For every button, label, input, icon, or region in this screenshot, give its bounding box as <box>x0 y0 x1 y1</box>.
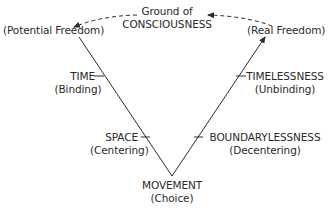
ground-of-text: Ground of <box>117 5 217 18</box>
consciousness-text: CONSCIOUSNESS <box>117 18 217 31</box>
space-sub: (Centering) <box>90 144 154 157</box>
real-freedom-label: (Real Freedom) <box>247 24 325 37</box>
time-term: TIME <box>53 70 103 83</box>
boundarylessness-term: BOUNDARYLESSNESS <box>203 131 327 144</box>
movement-sub: (Choice) <box>132 192 212 205</box>
boundarylessness-sub: (Decentering) <box>203 144 327 157</box>
timelessness-label: TIMELESSNESS (Unbinding) <box>245 70 325 96</box>
time-sub: (Binding) <box>53 83 103 96</box>
movement-term: MOVEMENT <box>132 179 212 192</box>
time-label: TIME (Binding) <box>53 70 103 96</box>
space-term: SPACE <box>90 131 154 144</box>
timelessness-sub: (Unbinding) <box>245 83 325 96</box>
potential-freedom-label: (Potential Freedom) <box>3 24 104 37</box>
movement-label: MOVEMENT (Choice) <box>132 179 212 205</box>
space-label: SPACE (Centering) <box>90 131 154 157</box>
timelessness-term: TIMELESSNESS <box>245 70 325 83</box>
boundarylessness-label: BOUNDARYLESSNESS (Decentering) <box>203 131 327 157</box>
ground-of-consciousness-label: Ground of CONSCIOUSNESS <box>117 5 217 31</box>
